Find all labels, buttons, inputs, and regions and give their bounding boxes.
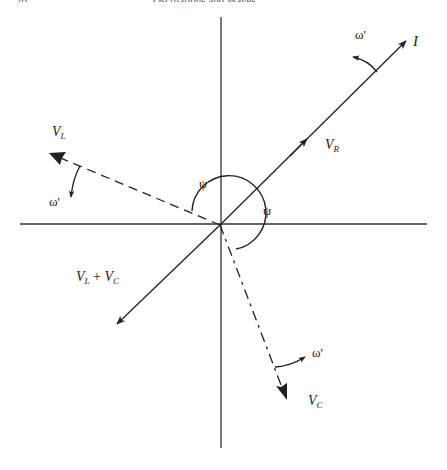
VL-arrowhead xyxy=(49,152,66,165)
label-omega-VC: ω' xyxy=(312,346,323,359)
label-VL: VL xyxy=(52,125,66,141)
label-VC: VC xyxy=(308,394,323,410)
label-psi-right: ψ xyxy=(263,204,271,217)
resistor-voltage-vector-VR xyxy=(290,139,307,156)
VC-arrowhead xyxy=(276,383,287,400)
capacitor-voltage-vector-VC xyxy=(220,225,286,398)
omega-rotation-arrow-I xyxy=(353,57,377,72)
current-vector-I xyxy=(220,41,406,225)
label-psi-upper: ψ xyxy=(199,177,207,190)
phasor-diagram: 20 Oscillations and Waves xyxy=(0,0,447,470)
sum-vector-VL-plus-VC xyxy=(117,225,220,324)
omega-rotation-arrow-VL xyxy=(71,166,80,197)
label-I: I xyxy=(413,34,418,49)
diagram-canvas xyxy=(0,0,447,470)
label-VR: VR xyxy=(325,138,339,154)
omega-rotation-arrow-VC xyxy=(275,357,305,367)
inductor-voltage-vector-VL xyxy=(51,154,220,225)
label-VL-plus-VC: VL + VC xyxy=(76,270,119,286)
label-omega-I: ω' xyxy=(355,28,366,41)
label-omega-VL: ω' xyxy=(49,195,60,208)
